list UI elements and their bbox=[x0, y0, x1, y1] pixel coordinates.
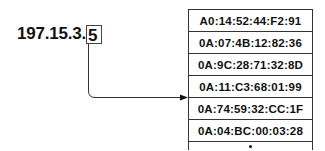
table-row: A0:14:52:44:F2:91 bbox=[189, 10, 312, 32]
vertical-ellipsis-icon bbox=[249, 145, 252, 151]
table-continuation bbox=[189, 142, 312, 150]
table-row: 0A:11:C3:68:01:99 bbox=[189, 76, 312, 98]
mac-address-table: A0:14:52:44:F2:91 0A:07:4B:12:82:36 0A:9… bbox=[188, 9, 313, 150]
table-row-pointed: 0A:74:59:32:CC:1F bbox=[189, 98, 312, 120]
table-row: 0A:07:4B:12:82:36 bbox=[189, 32, 312, 54]
arrowhead-icon bbox=[180, 95, 188, 101]
table-row: 0A:04:BC:00:03:28 bbox=[189, 120, 312, 142]
table-row: 0A:9C:28:71:32:8D bbox=[189, 54, 312, 76]
